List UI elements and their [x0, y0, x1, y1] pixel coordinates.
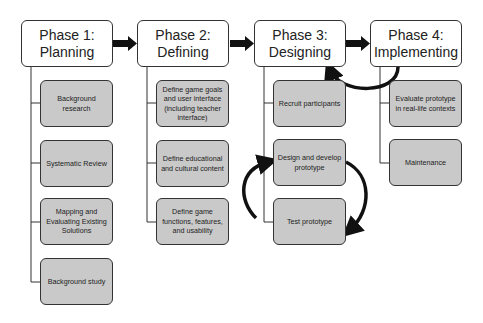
phase-1-header: Phase 1:Planning: [21, 20, 113, 67]
phase-2-label: Phase 2:: [155, 27, 210, 44]
phase-4-header: Phase 4:Implementing: [370, 20, 462, 67]
phase-2-name: Defining: [155, 44, 210, 61]
step-define-goals-ui: Define game goals and user interface (in…: [156, 80, 229, 127]
arrow-phase1-to-phase2: [113, 36, 137, 51]
phase-3-label: Phase 3:: [269, 27, 331, 44]
step-define-content: Define educational and cultural content: [156, 140, 229, 187]
step-evaluate-prototype: Evaluate prototype in real-life contexts: [389, 80, 462, 127]
step-define-functions: Define game functions, features, and usa…: [156, 198, 229, 245]
step-maintenance: Maintenance: [389, 139, 462, 186]
step-mapping-existing-solutions: Mapping and Evaluating Existing Solution…: [40, 198, 113, 245]
arrow-phase3-to-phase4: [346, 36, 370, 51]
phase-3-name: Designing: [269, 44, 331, 61]
arrow-phase2-to-phase3: [230, 36, 254, 51]
loop-arrow-design-to-test: [346, 162, 366, 230]
step-background-research: Background research: [40, 80, 113, 127]
step-test-prototype: Test prototype: [273, 198, 346, 245]
step-systematic-review: Systematic Review: [40, 140, 113, 187]
phase-4-label: Phase 4:: [374, 27, 458, 44]
phase-4-name: Implementing: [374, 44, 458, 61]
trunk-phase-1: [31, 67, 40, 282]
phase-1-name: Planning: [39, 44, 94, 61]
phase-3-header: Phase 3:Designing: [254, 20, 346, 67]
trunk-phase-2: [147, 67, 156, 222]
step-background-study: Background study: [40, 258, 113, 305]
trunk-phase-3: [264, 67, 273, 222]
step-design-develop-prototype: Design and develop prototype: [273, 139, 346, 186]
step-recruit-participants: Recruit participants: [273, 80, 346, 127]
phase-2-header: Phase 2:Defining: [137, 20, 229, 67]
phase-1-label: Phase 1:: [39, 27, 94, 44]
trunk-phase-4: [380, 67, 389, 163]
